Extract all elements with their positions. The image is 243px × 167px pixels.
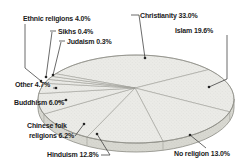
leader-dot-chinese-folk-religions xyxy=(83,123,86,126)
slice-label-other: Other 4.7% xyxy=(15,81,50,88)
pie-chart-figure: Christianity 33.0% Islam 19.6% No religi… xyxy=(0,0,243,167)
leader-dot-buddhism xyxy=(65,99,68,102)
slice-label-islam: Islam 19.6% xyxy=(175,27,213,34)
slice-label-sikhs: Sikhs 0.4% xyxy=(58,28,93,35)
leader-dot-judaism xyxy=(52,74,55,77)
slice-label-judaism: Judaism 0.3% xyxy=(67,38,112,45)
slice-label-chinese-folk-line2: religions 6.2% xyxy=(29,132,74,139)
leader-dot-no-religion xyxy=(189,134,192,137)
slice-label-buddhism: Buddhism 6.0% xyxy=(14,99,64,106)
leader-dot-christianity xyxy=(144,57,147,60)
slice-label-chinese-folk-line1: Chinese folk xyxy=(27,122,67,129)
leader-dot-sikhs xyxy=(45,76,48,79)
leader-line-christianity xyxy=(139,15,145,58)
leader-line-judaism xyxy=(53,42,61,75)
leader-dot-other xyxy=(55,87,58,90)
slice-label-hinduism: Hinduism 12.8% xyxy=(47,151,99,158)
slice-label-ethnic-religions: Ethnic religions 4.0% xyxy=(23,15,90,22)
slice-label-no-religion: No religion 13.0% xyxy=(174,150,230,157)
leader-line-ethnic-religions xyxy=(25,24,41,81)
leader-dot-islam xyxy=(208,86,211,89)
slice-label-christianity: Christianity 33.0% xyxy=(140,12,198,19)
pie-top-texture xyxy=(38,55,234,143)
leader-dot-hinduism xyxy=(96,133,99,136)
leader-line-sikhs xyxy=(46,32,52,77)
